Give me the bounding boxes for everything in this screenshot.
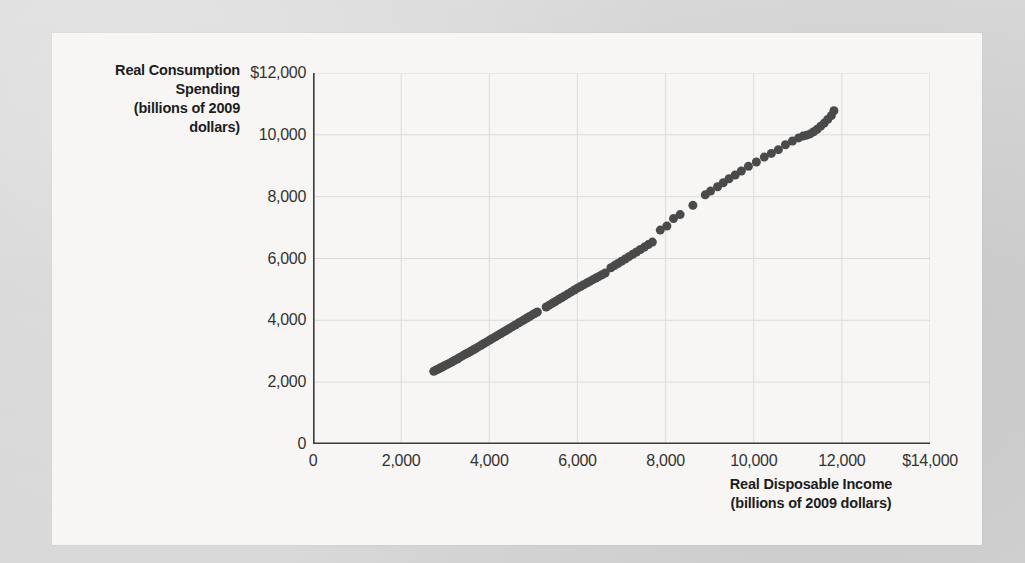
y-axis-tick-label: 0 <box>186 435 306 453</box>
x-axis-title-line-1: Real Disposable Income <box>652 475 970 494</box>
y-axis-tick-label: 2,000 <box>186 373 306 391</box>
y-axis-tick-label: 8,000 <box>186 188 306 206</box>
y-axis-tick-label: $12,000 <box>186 64 306 82</box>
x-axis-title: Real Disposable Income (billions of 2009… <box>652 475 970 513</box>
data-point <box>829 106 838 115</box>
y-axis-title-line-3: (billions of 2009 <box>60 99 240 118</box>
x-axis-title-line-2: (billions of 2009 dollars) <box>652 494 970 513</box>
data-point <box>676 210 685 219</box>
x-axis-tick-label: 6,000 <box>558 452 597 470</box>
figure-card: Real Consumption Spending (billions of 2… <box>52 33 982 545</box>
x-axis-tick-label: 8,000 <box>646 452 685 470</box>
x-axis-tick-label: 0 <box>309 452 318 470</box>
x-axis-tick-label: 2,000 <box>382 452 421 470</box>
scatter-plot: 02,0004,0006,0008,00010,000$12,000 02,00… <box>313 73 933 445</box>
y-axis-tick-label: 4,000 <box>186 311 306 329</box>
data-point <box>533 307 542 316</box>
data-point <box>752 158 761 167</box>
data-point <box>744 162 753 171</box>
scatter-plot-canvas <box>313 73 930 444</box>
data-point <box>662 222 671 231</box>
data-point <box>688 201 697 210</box>
x-axis-tick-label: 4,000 <box>470 452 509 470</box>
x-axis-tick-label: 12,000 <box>818 452 865 470</box>
plot-area <box>313 73 930 444</box>
y-axis-title-line-2: Spending <box>60 80 240 99</box>
y-axis-tick-label: 10,000 <box>186 126 306 144</box>
x-axis-tick-label: $14,000 <box>902 452 958 470</box>
data-point <box>648 238 657 247</box>
data-points <box>429 106 838 376</box>
x-axis-tick-label: 10,000 <box>730 452 777 470</box>
y-axis-tick-label: 6,000 <box>186 250 306 268</box>
